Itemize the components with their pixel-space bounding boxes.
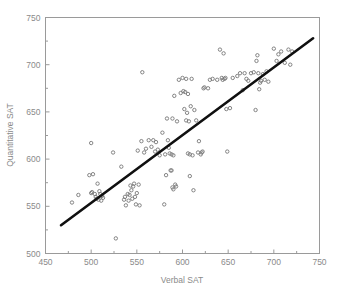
data-point (88, 173, 91, 176)
x-tick-label: 450 (38, 257, 52, 267)
regression-line (61, 38, 313, 225)
data-point (177, 78, 180, 81)
data-point (190, 77, 193, 80)
data-point (183, 107, 186, 110)
data-point (236, 74, 239, 77)
data-point (255, 59, 258, 62)
data-point (171, 117, 174, 120)
data-point (130, 189, 133, 192)
data-point (142, 151, 145, 154)
x-tick-label: 650 (221, 257, 235, 267)
data-point (263, 78, 266, 81)
data-point (173, 94, 176, 97)
data-point (120, 165, 123, 168)
data-point (189, 105, 192, 108)
data-point (135, 191, 138, 194)
x-tick-label: 550 (130, 257, 144, 267)
data-point (150, 145, 153, 148)
data-point (175, 120, 178, 123)
y-tick-label: 700 (26, 60, 40, 70)
data-point (144, 147, 147, 150)
data-point (287, 48, 290, 51)
data-point (154, 140, 157, 143)
data-point (124, 204, 127, 207)
data-point (222, 52, 225, 55)
x-tick-label: 500 (84, 257, 98, 267)
data-point (181, 76, 184, 79)
data-point (188, 174, 191, 177)
data-point (147, 139, 150, 142)
data-point (137, 183, 140, 186)
data-point (206, 87, 209, 90)
data-point (164, 173, 167, 176)
x-tick-label: 750 (312, 257, 326, 267)
y-axis-tick-labels: 500550600650700750 (26, 13, 40, 259)
chart-canvas: 450500550600650700750 500550600650700750… (0, 0, 337, 291)
data-point (289, 63, 292, 66)
regression-line-group (61, 38, 313, 225)
x-tick-label: 600 (175, 257, 189, 267)
data-point (141, 71, 144, 74)
data-point (161, 131, 164, 134)
data-point (272, 47, 275, 50)
data-point (134, 203, 137, 206)
data-point (133, 195, 136, 198)
y-tick-label: 750 (26, 13, 40, 23)
data-point (140, 139, 143, 142)
data-point (77, 193, 80, 196)
data-point (197, 139, 200, 142)
data-point (193, 108, 196, 111)
y-tick-label: 600 (26, 154, 40, 164)
data-point (89, 141, 92, 144)
data-point (91, 173, 94, 176)
data-point (243, 72, 246, 75)
x-tick-label: 700 (267, 257, 281, 267)
data-point (256, 54, 259, 57)
data-point (275, 59, 278, 62)
data-point (225, 107, 228, 110)
data-point (184, 77, 187, 80)
data-point (138, 204, 141, 207)
data-point (195, 119, 198, 122)
data-point (218, 48, 221, 51)
data-point (216, 78, 219, 81)
data-point (156, 148, 159, 151)
data-point (163, 203, 166, 206)
data-point (166, 139, 169, 142)
x-axis-major-ticks (46, 250, 320, 254)
x-axis-title: Verbal SAT (161, 275, 203, 285)
data-point (238, 72, 241, 75)
x-axis-tick-labels: 450500550600650700750 (38, 257, 326, 267)
scatter-plot-figure: 450500550600650700750 500550600650700750… (0, 0, 337, 291)
data-point (96, 182, 99, 185)
data-point (127, 199, 130, 202)
data-point (136, 149, 139, 152)
data-point (185, 111, 188, 114)
data-point (254, 108, 257, 111)
y-tick-label: 550 (26, 201, 40, 211)
data-point (277, 53, 280, 56)
data-point (231, 76, 234, 79)
data-point (165, 117, 168, 120)
data-point (279, 50, 282, 53)
data-point (111, 151, 114, 154)
data-point (257, 72, 260, 75)
data-point (258, 88, 261, 91)
data-point (267, 80, 270, 83)
data-point (163, 153, 166, 156)
y-tick-label: 650 (26, 107, 40, 117)
data-point (228, 106, 231, 109)
data-point (186, 92, 189, 95)
y-axis-title: Quantitative SAT (5, 103, 15, 167)
data-point (70, 201, 73, 204)
data-point (192, 189, 195, 192)
data-point (114, 237, 117, 240)
y-tick-label: 500 (26, 249, 40, 259)
data-point (226, 150, 229, 153)
